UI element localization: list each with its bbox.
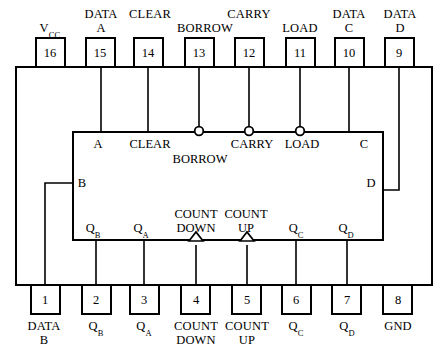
data-d-line2: D — [383, 22, 416, 36]
pin-count-up-line1: COUNT — [225, 320, 269, 334]
data-b-line2: B — [27, 334, 60, 348]
qa-subscript: A — [142, 230, 148, 240]
pin-number-3: 3 — [141, 293, 147, 308]
pin-label-data-b: DATA B — [27, 320, 60, 347]
vcc-subscript: CC — [49, 30, 61, 40]
pin-number-16: 16 — [44, 46, 57, 61]
data-c-line2: C — [332, 22, 365, 36]
pin-label-QA: QA — [136, 320, 152, 333]
block-count-up-line1: COUNT — [224, 208, 267, 222]
block-label-C: C — [360, 138, 368, 152]
pin-number-2: 2 — [93, 293, 99, 308]
block-label-count-up: COUNT UP — [224, 208, 267, 235]
pin-count-up-line2: UP — [225, 334, 269, 348]
pin-number-10: 10 — [343, 46, 356, 61]
carry-bubble-icon — [245, 127, 254, 136]
block-label-D: D — [366, 177, 375, 191]
qc-subscript: C — [298, 230, 304, 240]
pin-number-6: 6 — [293, 293, 299, 308]
block-label-load: LOAD — [285, 138, 320, 152]
pin-number-14: 14 — [142, 46, 155, 61]
diagram-canvas — [0, 0, 446, 359]
pin-number-11: 11 — [294, 46, 306, 61]
block-label-QC: QC — [289, 222, 304, 236]
pin-number-8: 8 — [395, 293, 401, 308]
pin-label-count-up: COUNT UP — [225, 320, 269, 347]
pin-number-7: 7 — [344, 293, 350, 308]
pin-number-1: 1 — [42, 293, 48, 308]
block-label-QD: QD — [338, 222, 353, 236]
pin-number-5: 5 — [244, 293, 250, 308]
block-label-B: B — [78, 177, 86, 191]
pin-number-9: 9 — [396, 46, 402, 61]
pin-label-gnd: GND — [384, 320, 412, 333]
pin-label-carry: CARRY — [227, 8, 270, 21]
pin-label-borrow: BORROW — [177, 22, 233, 35]
top-pin-boxes — [36, 38, 414, 67]
pin-label-count-down: COUNT DOWN — [174, 320, 218, 347]
block-label-clear: CLEAR — [130, 138, 171, 152]
pin-label-data-c: DATA C — [332, 8, 365, 35]
qd-subscript: D — [347, 230, 353, 240]
pin-qd-subscript: D — [348, 328, 354, 338]
pin-qa-subscript: A — [145, 328, 151, 338]
data-c-line1: DATA — [332, 8, 365, 22]
pin-number-12: 12 — [243, 46, 256, 61]
pin-label-vcc: VCC — [40, 22, 61, 35]
wire-pin9-to-D — [383, 67, 399, 190]
pin-label-QC: QC — [288, 320, 303, 333]
qb-subscript: B — [95, 230, 101, 240]
block-label-QA: QA — [133, 222, 148, 236]
block-label-QB: QB — [86, 222, 101, 236]
pin-qc-subscript: C — [298, 328, 304, 338]
block-label-count-down: COUNT DOWN — [174, 208, 217, 235]
bottom-pin-boxes — [31, 285, 412, 314]
pinout-diagram: 16 15 14 13 12 11 10 9 VCC DATA A CLEAR … — [0, 0, 446, 359]
pin-label-data-d: DATA D — [383, 8, 416, 35]
pin-number-15: 15 — [94, 46, 107, 61]
pin-label-QD: QD — [339, 320, 355, 333]
pin-label-clear: CLEAR — [129, 8, 171, 21]
block-label-carry: CARRY — [231, 138, 273, 152]
block-label-A: A — [93, 138, 102, 152]
block-label-borrow: BORROW — [173, 153, 228, 167]
load-bubble-icon — [296, 127, 305, 136]
block-count-up-line2: UP — [224, 222, 267, 236]
wire-pin1-to-B — [45, 183, 73, 285]
pin-number-13: 13 — [193, 46, 206, 61]
data-b-line1: DATA — [27, 320, 60, 334]
data-a-line1: DATA — [84, 8, 117, 22]
data-d-line1: DATA — [383, 8, 416, 22]
pin-number-4: 4 — [193, 293, 199, 308]
pin-count-down-line2: DOWN — [174, 334, 218, 348]
pin-qb-subscript: B — [98, 328, 104, 338]
block-count-down-line1: COUNT — [174, 208, 217, 222]
pin-label-data-a: DATA A — [84, 8, 117, 35]
pin-label-QB: QB — [88, 320, 103, 333]
pin-count-down-line1: COUNT — [174, 320, 218, 334]
pin-label-load: LOAD — [282, 22, 318, 35]
data-a-line2: A — [84, 22, 117, 36]
block-count-down-line2: DOWN — [174, 222, 217, 236]
borrow-bubble-icon — [195, 127, 204, 136]
